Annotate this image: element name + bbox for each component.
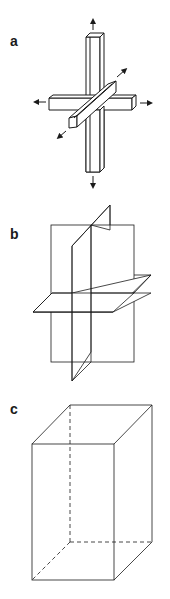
panel-a-bars (36, 21, 150, 186)
panel-b-planes (33, 205, 151, 381)
panel-c-box (32, 405, 152, 580)
figure-canvas (0, 0, 170, 599)
